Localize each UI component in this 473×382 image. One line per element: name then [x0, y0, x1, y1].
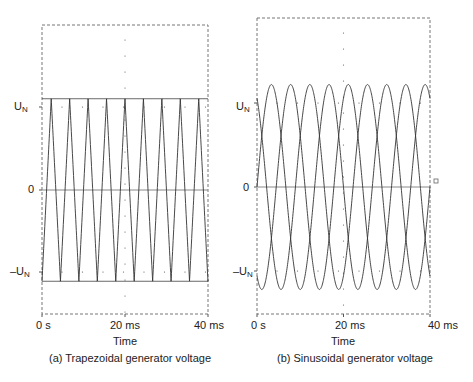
sinusoidal-plot [254, 18, 438, 317]
left-ytick-zero: 0 [28, 183, 34, 195]
right-caption: (b) Sinusoidal generator voltage [277, 352, 433, 364]
right-xtick-20: 20 ms [335, 319, 365, 331]
plot-frame [257, 18, 430, 314]
right-xtick-0: 0 s [251, 319, 266, 331]
plot-frame [42, 25, 208, 314]
right-xtick-40: 40 ms [428, 319, 458, 331]
left-xtick-40: 40 ms [194, 319, 224, 331]
left-caption: (a) Trapezoidal generator voltage [49, 352, 211, 364]
right-ytick-un: UN [236, 100, 250, 114]
left-xtick-0: 0 s [36, 319, 51, 331]
left-ytick-neg-un: –UN [10, 265, 30, 279]
trapezoidal-plot [39, 25, 208, 317]
left-xtick-20: 20 ms [110, 319, 140, 331]
left-ytick-un: UN [14, 100, 28, 114]
right-ytick-zero: 0 [243, 181, 249, 193]
figure-canvas [0, 0, 473, 382]
right-xlabel: Time [331, 335, 355, 347]
marker-square [434, 179, 438, 183]
left-xlabel: Time [113, 335, 137, 347]
right-ytick-neg-un: –UN [233, 265, 253, 279]
